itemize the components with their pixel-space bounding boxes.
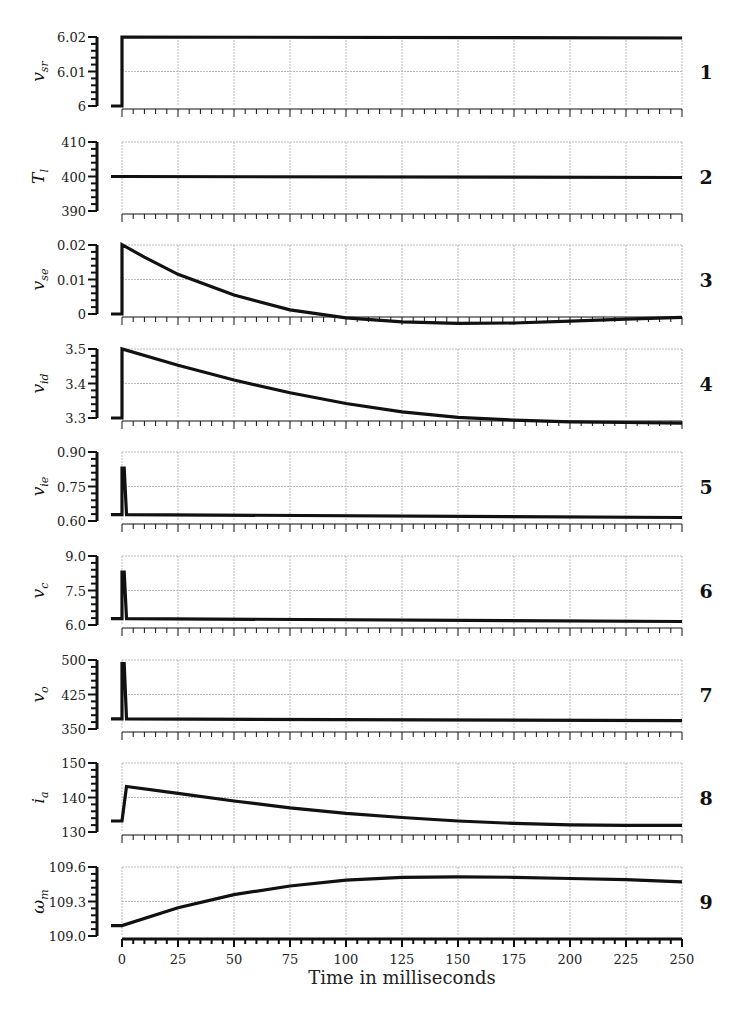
- y-tick-label: 6.02: [57, 30, 86, 45]
- data-series-line: [111, 664, 682, 721]
- y-tick-label: 350: [61, 722, 86, 737]
- y-axis-label: vo: [28, 686, 51, 703]
- y-axis-label: vse: [28, 268, 51, 290]
- panel-number: 2: [699, 166, 712, 188]
- y-tick-label: 0.01: [57, 273, 86, 288]
- data-series-line: [111, 787, 682, 826]
- y-tick-label: 9.0: [65, 549, 86, 564]
- panel-number: 8: [699, 787, 712, 809]
- grid: [122, 349, 682, 418]
- y-axis-label: vsr: [28, 61, 51, 82]
- y-tick-label: 390: [61, 204, 86, 219]
- y-label-subscript: id: [38, 373, 51, 384]
- panel-1: 66.016.02vsr1: [28, 30, 713, 117]
- panel-number: 7: [699, 684, 712, 706]
- y-tick-label: 410: [61, 135, 86, 150]
- grid: [122, 556, 682, 625]
- x-tick-label: 150: [446, 952, 471, 967]
- y-label-subscript: l: [38, 169, 51, 173]
- y-label-symbol: v: [28, 280, 48, 290]
- y-label-subscript: m: [38, 889, 51, 899]
- x-tick-label: 75: [282, 952, 299, 967]
- x-tick-label: 225: [614, 952, 639, 967]
- y-label-symbol: v: [28, 486, 48, 496]
- x-tick-label: 50: [226, 952, 243, 967]
- y-axis-label: vie: [28, 476, 51, 496]
- data-series-line: [111, 572, 682, 621]
- y-tick-label: 0.90: [57, 445, 86, 460]
- y-axis-label: Tl: [28, 169, 51, 184]
- panel-7: 350425500vo7: [28, 653, 713, 740]
- panel-4: 3.33.43.5vid4: [28, 342, 713, 429]
- y-label-subscript: a: [38, 792, 51, 799]
- y-tick-label: 7.5: [65, 584, 86, 599]
- x-tick-label: 175: [502, 952, 527, 967]
- y-label-subscript: ie: [38, 476, 51, 487]
- x-axis-title: Time in milliseconds: [308, 967, 496, 988]
- panel-number: 3: [699, 269, 712, 291]
- panel-9: 109.0109.3109.6ωm9: [28, 860, 713, 947]
- y-tick-label: 0: [78, 307, 86, 322]
- data-series-line: [111, 245, 682, 324]
- y-label-symbol: v: [28, 693, 48, 703]
- panel-6: 6.07.59.0vc6: [28, 549, 713, 636]
- y-axis-label: vc: [28, 583, 51, 599]
- data-series-line: [111, 468, 682, 517]
- y-tick-label: 0.02: [57, 238, 86, 253]
- panel-8: 130140150ia8: [28, 756, 713, 843]
- y-tick-label: 140: [61, 791, 86, 806]
- y-tick-label: 6: [78, 99, 86, 114]
- x-tick-label: 250: [670, 952, 695, 967]
- y-label-subscript: c: [38, 583, 51, 589]
- panel-2: 390400410Tl2: [28, 135, 713, 222]
- x-tick-label: 100: [334, 952, 359, 967]
- y-label-symbol: ω: [28, 900, 48, 914]
- x-tick-label: 200: [558, 952, 583, 967]
- y-label-symbol: v: [28, 588, 48, 598]
- y-tick-label: 109.6: [49, 860, 86, 875]
- stacked-time-series-figure: 66.016.02vsr1390400410Tl200.010.02vse33.…: [0, 0, 743, 1012]
- y-label-subscript: o: [38, 686, 51, 693]
- y-axis-label: ωm: [28, 889, 51, 913]
- x-tick-label: 125: [390, 952, 415, 967]
- y-label-symbol: v: [28, 384, 48, 394]
- x-tick-label: 0: [118, 952, 126, 967]
- y-label-symbol: v: [28, 72, 48, 82]
- y-tick-label: 400: [61, 170, 86, 185]
- y-tick-label: 6.01: [57, 65, 86, 80]
- y-label-subscript: sr: [38, 61, 51, 73]
- panel-number: 9: [699, 891, 712, 913]
- x-tick-label: 25: [170, 952, 187, 967]
- y-tick-label: 3.4: [65, 377, 86, 392]
- y-tick-label: 0.75: [57, 480, 86, 495]
- grid: [122, 452, 682, 521]
- y-tick-label: 3.5: [65, 342, 86, 357]
- y-label-subscript: se: [38, 268, 51, 281]
- grid: [122, 37, 682, 106]
- y-tick-label: 150: [61, 756, 86, 771]
- data-series-line: [111, 177, 682, 178]
- y-tick-label: 425: [61, 688, 86, 703]
- panel-number: 5: [699, 476, 712, 498]
- data-series-line: [111, 349, 682, 423]
- y-tick-label: 3.3: [65, 411, 86, 426]
- y-tick-label: 500: [61, 653, 86, 668]
- panel-number: 1: [699, 61, 712, 83]
- panel-number: 4: [699, 373, 712, 395]
- panel-5: 0.600.750.90vie5: [28, 445, 713, 532]
- y-axis-label: ia: [28, 792, 51, 804]
- grid: [122, 245, 682, 314]
- panel-number: 6: [699, 580, 712, 602]
- y-tick-label: 109.0: [49, 929, 86, 944]
- y-axis-label: vid: [28, 373, 51, 393]
- y-tick-label: 109.3: [49, 895, 86, 910]
- panel-3: 00.010.02vse3: [28, 238, 713, 325]
- y-tick-label: 6.0: [65, 618, 86, 633]
- y-tick-label: 0.60: [57, 514, 86, 529]
- y-tick-label: 130: [61, 825, 86, 840]
